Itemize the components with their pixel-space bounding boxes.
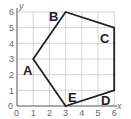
- svg-text:6: 6: [112, 108, 117, 118]
- y-tick-labels: 0 1 2 3 4 5 6: [8, 7, 14, 111]
- coordinate-plane: x y 0 1 2 3 4 5 6 0 1 2 3 4 5 6 A B C D …: [0, 0, 131, 119]
- vertex-label-b: B: [49, 9, 58, 24]
- vertex-label-d: D: [101, 93, 110, 108]
- svg-text:2: 2: [9, 70, 14, 80]
- vertex-label-a: A: [23, 63, 33, 78]
- grid-lines: [17, 12, 114, 106]
- y-axis-label: y: [18, 1, 24, 11]
- svg-text:2: 2: [47, 108, 52, 118]
- vertex-label-e: E: [68, 90, 77, 105]
- svg-text:0: 0: [14, 108, 19, 118]
- svg-text:5: 5: [9, 23, 14, 33]
- svg-text:1: 1: [9, 86, 14, 96]
- x-axis-label: x: [116, 101, 122, 111]
- svg-text:6: 6: [9, 7, 14, 17]
- svg-text:1: 1: [31, 108, 36, 118]
- svg-text:3: 3: [63, 108, 68, 118]
- svg-text:3: 3: [9, 54, 14, 64]
- svg-text:0: 0: [8, 101, 13, 111]
- svg-text:4: 4: [79, 108, 84, 118]
- x-tick-labels: 0 1 2 3 4 5 6: [14, 108, 117, 118]
- svg-text:5: 5: [96, 108, 101, 118]
- vertex-label-c: C: [100, 31, 110, 46]
- svg-text:4: 4: [9, 39, 14, 49]
